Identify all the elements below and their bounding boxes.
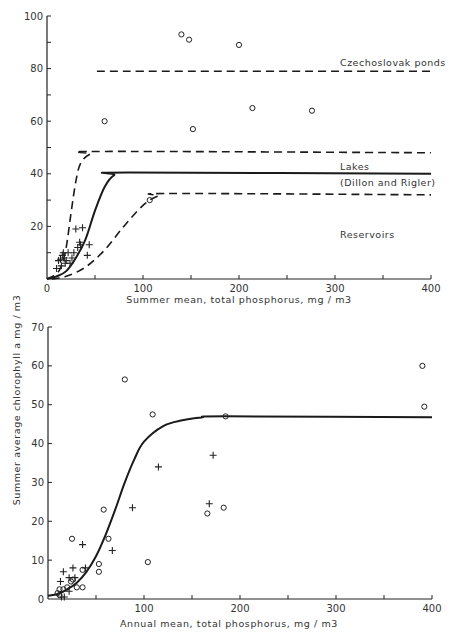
cross-marker — [72, 226, 79, 233]
circle-marker — [122, 377, 127, 382]
circle-marker — [205, 511, 210, 516]
y-tick-label: 60 — [30, 116, 43, 127]
y-tick-label: 100 — [24, 11, 43, 22]
circle-marker — [186, 37, 191, 42]
cross-marker — [210, 452, 217, 459]
circle-marker — [150, 412, 155, 417]
cross-marker — [57, 578, 64, 585]
circle-marker — [101, 507, 106, 512]
circle-marker — [236, 42, 241, 47]
circle-marker — [179, 32, 184, 37]
x-tick-label: 200 — [230, 603, 249, 614]
bottom-x-axis-title: Annual mean, total phosphorus, mg / m3 — [120, 618, 338, 629]
circle-marker — [69, 536, 74, 541]
curve-line — [48, 416, 432, 596]
curve-line — [47, 172, 431, 279]
circle-marker — [96, 561, 101, 566]
y-tick-label: 40 — [30, 168, 43, 179]
x-tick-label: 100 — [134, 603, 153, 614]
y-tick-label: 60 — [31, 360, 44, 371]
circle-marker — [106, 536, 111, 541]
circle-marker — [190, 126, 195, 131]
annotation-lakes: Lakes — [340, 161, 370, 172]
x-tick-label: 200 — [229, 283, 248, 294]
circle-marker — [420, 363, 425, 368]
cross-marker — [129, 504, 136, 511]
top-x-axis-title: Summer mean, total phosphorus, mg / m3 — [126, 294, 351, 305]
chart-figure: 010020030040020406080100 Summer mean, to… — [0, 0, 450, 636]
x-tick-label: 300 — [325, 283, 344, 294]
y-tick-label: 50 — [31, 399, 44, 410]
bottom-curves — [48, 416, 432, 596]
bottom-chart: 100200300400010203040506070 Annual mean,… — [31, 322, 441, 630]
y-tick-label: 20 — [31, 516, 44, 527]
top-curves — [47, 71, 431, 279]
cross-marker — [71, 574, 78, 581]
x-tick-label: 0 — [44, 283, 50, 294]
cross-marker — [60, 568, 67, 575]
cross-marker — [155, 463, 162, 470]
cross-marker — [84, 252, 91, 259]
bottom-axes: 100200300400010203040506070 — [31, 322, 441, 615]
y-tick-label: 40 — [31, 438, 44, 449]
circle-marker — [309, 108, 314, 113]
top-chart: 010020030040020406080100 Summer mean, to… — [24, 11, 446, 306]
circle-marker — [74, 585, 79, 590]
y-tick-label: 70 — [31, 322, 44, 333]
y-tick-label: 80 — [30, 63, 43, 74]
y-tick-label: 0 — [38, 594, 44, 605]
circle-marker — [147, 198, 152, 203]
cross-marker — [69, 564, 76, 571]
y-tick-label: 20 — [30, 221, 43, 232]
circle-marker — [422, 404, 427, 409]
x-tick-label: 400 — [421, 283, 440, 294]
shared-y-axis-title: Summer average chlorophyll a mg / m3 — [11, 295, 22, 506]
circle-marker — [96, 569, 101, 574]
cross-marker — [79, 224, 86, 231]
y-tick-label: 10 — [31, 555, 44, 566]
x-tick-label: 400 — [422, 603, 441, 614]
annotation-reservoirs: Reservoirs — [340, 229, 395, 240]
circle-marker — [145, 559, 150, 564]
curve-line — [47, 151, 431, 279]
x-tick-label: 100 — [133, 283, 152, 294]
cross-marker — [206, 500, 213, 507]
y-tick-label: 30 — [31, 477, 44, 488]
cross-marker — [109, 547, 116, 554]
cross-marker — [86, 241, 93, 248]
circle-marker — [102, 119, 107, 124]
annotation-czechoslovak-ponds: Czechoslovak ponds — [340, 57, 446, 68]
bottom-points — [55, 363, 427, 600]
annotation-dillon-rigler: (Dillon and Rigler) — [340, 177, 436, 188]
x-tick-label: 300 — [326, 603, 345, 614]
circle-marker — [80, 585, 85, 590]
cross-marker — [79, 541, 86, 548]
circle-marker — [250, 105, 255, 110]
circle-marker — [221, 505, 226, 510]
